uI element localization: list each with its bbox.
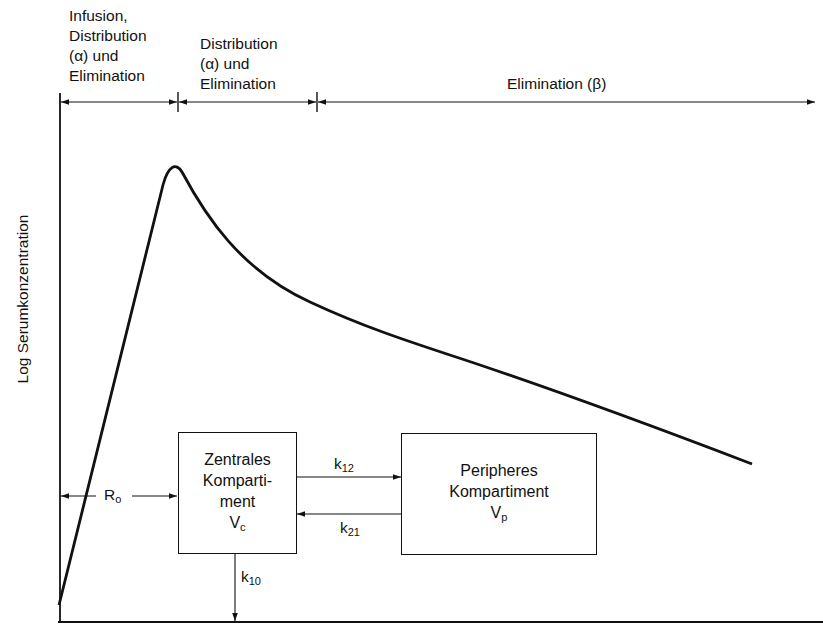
subscript: 12	[342, 462, 354, 474]
phase-line: Distribution	[69, 26, 147, 46]
box-line: ment	[203, 491, 272, 512]
subscript: 21	[348, 526, 360, 538]
subscript: o	[115, 493, 121, 505]
symbol: R	[104, 486, 115, 503]
phase-label-infusion: Infusion, Distribution (α) und Eliminati…	[69, 6, 147, 86]
phase-line: Infusion,	[69, 6, 147, 26]
infusion-rate-label: Ro	[104, 485, 121, 509]
k21-label: k21	[340, 518, 360, 542]
symbol: k	[340, 519, 348, 536]
phase-line: (α) und	[69, 46, 147, 66]
symbol: k	[241, 568, 249, 585]
phase-line: Distribution	[200, 34, 278, 54]
subscript: c	[240, 521, 246, 533]
phase-label-distribution: Distribution (α) und Elimination	[200, 34, 278, 94]
box-line: Peripheres	[449, 460, 549, 481]
k12-label: k12	[334, 454, 354, 478]
symbol: V	[491, 504, 502, 521]
phase-line: (α) und	[200, 54, 278, 74]
volume-label: Vp	[449, 502, 549, 528]
box-line: Kompartiment	[449, 481, 549, 502]
volume-label: Vc	[203, 512, 272, 538]
phase-label-elimination: Elimination (β)	[507, 74, 606, 94]
central-compartment-box: Zentrales Komparti- ment Vc	[178, 432, 297, 554]
symbol: k	[334, 455, 342, 472]
phase-line: Elimination	[200, 74, 278, 94]
symbol: V	[229, 514, 240, 531]
box-line: Zentrales	[203, 449, 272, 470]
phase-arrows	[61, 92, 815, 112]
subscript: 10	[249, 575, 261, 587]
peripheral-compartment-box: Peripheres Kompartiment Vp	[401, 433, 597, 555]
phase-line: Elimination	[69, 66, 147, 86]
y-axis-label: Log Serumkonzentration	[14, 214, 32, 384]
k10-label: k10	[241, 567, 261, 591]
box-line: Komparti-	[203, 470, 272, 491]
subscript: p	[501, 511, 507, 523]
